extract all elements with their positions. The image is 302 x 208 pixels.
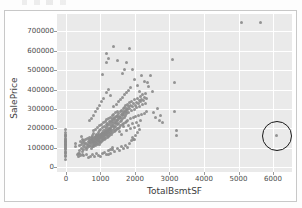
x-tick-label: 2000 [126, 175, 144, 183]
x-tick-label: 1000 [92, 175, 110, 183]
data-point [112, 45, 115, 48]
plot-panel [57, 14, 292, 172]
data-point [113, 150, 116, 153]
data-point [120, 133, 123, 136]
y-tick-label: 300000 [27, 105, 54, 113]
data-point [107, 88, 110, 91]
chart-figure: 0100000200000300000400000500000600000700… [0, 0, 302, 208]
y-tick-mark [54, 31, 57, 32]
y-tick-label: 200000 [27, 124, 54, 132]
x-tick-mark [66, 172, 67, 175]
x-tick-mark [100, 172, 101, 175]
data-point [175, 129, 178, 132]
data-point [102, 97, 105, 100]
y-tick-mark [54, 167, 57, 168]
x-tick-mark [169, 172, 170, 175]
gridline-horizontal [57, 51, 292, 52]
data-point [144, 92, 147, 95]
y-tick-label: 500000 [27, 66, 54, 74]
data-point [92, 114, 95, 117]
data-point [240, 21, 243, 24]
data-point [118, 149, 121, 152]
x-tick-label: 6000 [264, 175, 282, 183]
data-point [137, 124, 140, 127]
data-point [105, 91, 108, 94]
data-point [159, 114, 162, 117]
data-point [115, 115, 118, 118]
data-point [107, 57, 110, 60]
x-tick-label: 3000 [161, 175, 179, 183]
data-point [131, 122, 134, 125]
data-point [100, 100, 103, 103]
data-point [146, 81, 149, 84]
data-point [145, 97, 148, 100]
data-point [144, 102, 147, 105]
data-point [154, 116, 157, 119]
data-point [139, 119, 142, 122]
x-tick-mark [239, 172, 240, 175]
cropped-top-artifact [22, 0, 96, 5]
data-point [64, 131, 67, 134]
data-point [128, 142, 131, 145]
data-point [115, 103, 118, 106]
x-tick-label: 4000 [195, 175, 213, 183]
y-tick-mark [54, 70, 57, 71]
data-point [109, 94, 112, 97]
data-point [171, 58, 174, 61]
data-point [121, 72, 124, 75]
data-point [99, 155, 102, 158]
data-point [129, 127, 132, 130]
data-point [64, 158, 67, 161]
y-axis-title: SalePrice [9, 58, 19, 138]
data-point [151, 90, 154, 93]
y-tick-label: 400000 [27, 86, 54, 94]
y-tick-label: 600000 [27, 47, 54, 55]
x-tick-mark [135, 172, 136, 175]
data-point [105, 61, 108, 64]
data-point [116, 110, 119, 113]
y-tick-mark [54, 148, 57, 149]
x-tick-label: 5000 [230, 175, 248, 183]
data-point [136, 131, 139, 134]
data-point [81, 138, 84, 141]
data-point [152, 111, 155, 114]
y-tick-mark [54, 128, 57, 129]
y-tick-mark [54, 109, 57, 110]
data-point [122, 147, 125, 150]
data-point [126, 146, 129, 149]
data-point [173, 110, 176, 113]
data-point [94, 110, 97, 113]
data-point [133, 126, 136, 129]
data-point [131, 136, 134, 139]
gridline-horizontal [57, 90, 292, 91]
data-point [175, 134, 178, 137]
x-tick-label: 0 [64, 175, 68, 183]
y-tick-label: 700000 [27, 27, 54, 35]
data-point [74, 145, 77, 148]
data-point [140, 74, 143, 77]
x-tick-mark [204, 172, 205, 175]
data-point [161, 121, 164, 124]
data-point [88, 119, 91, 122]
data-point [123, 68, 126, 71]
data-point [121, 96, 124, 99]
data-point [125, 61, 128, 64]
data-point [116, 59, 119, 62]
x-tick-mark [273, 172, 274, 175]
y-tick-mark [54, 51, 57, 52]
data-point [147, 85, 150, 88]
data-point [149, 74, 152, 77]
data-point [107, 153, 110, 156]
data-point [156, 107, 159, 110]
data-point [145, 110, 148, 113]
data-point [74, 142, 77, 145]
data-point [127, 89, 130, 92]
data-point [125, 129, 128, 132]
outlier-highlight-circle [262, 121, 292, 151]
data-point [93, 155, 96, 158]
gridline-horizontal [57, 167, 292, 168]
data-point [133, 138, 136, 141]
data-point [101, 73, 104, 76]
gridline-horizontal [57, 70, 292, 71]
data-point [136, 84, 139, 87]
